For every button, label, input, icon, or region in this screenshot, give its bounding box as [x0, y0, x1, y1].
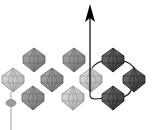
pin-marker [6, 92, 16, 130]
octahedron-medium [41, 68, 63, 92]
octahedron-dark [102, 86, 124, 110]
octahedron-medium [22, 86, 44, 110]
octahedron-light [80, 68, 102, 92]
octahedron-medium [23, 48, 45, 72]
octahedron-dark [123, 68, 145, 92]
octahedron-light [62, 86, 84, 110]
octahedron-medium [63, 48, 85, 72]
octahedra-diagram [0, 0, 158, 130]
octahedron-dark [102, 48, 124, 72]
octahedron-light [2, 68, 24, 92]
